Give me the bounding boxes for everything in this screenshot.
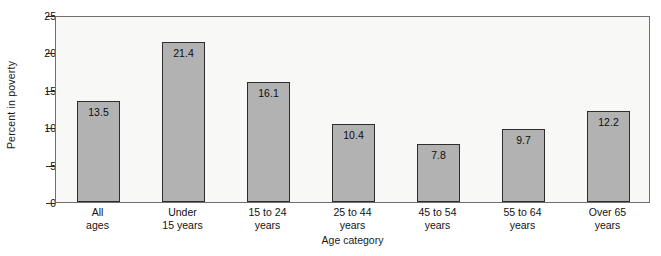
bar-value-label: 10.4 [343, 129, 363, 141]
x-axis-category-label-line1: 55 to 64 [480, 206, 565, 219]
bar-value-label: 13.5 [88, 106, 108, 118]
x-axis-category-label: 45 to 54years [395, 206, 480, 232]
y-axis-tick-mark [46, 166, 55, 167]
x-axis-category-label: Under15 years [140, 206, 225, 232]
x-axis-category-label-line2: ages [55, 219, 140, 232]
x-axis-category-label: Allages [55, 206, 140, 232]
x-axis-category-label-line1: 15 to 24 [225, 206, 310, 219]
bar[interactable]: 16.1 [247, 82, 290, 202]
x-axis-category-label-line1: All [55, 206, 140, 219]
bar[interactable]: 21.4 [162, 42, 205, 202]
x-axis-category-label: Over 65years [565, 206, 650, 232]
x-axis-category-label: 25 to 44years [310, 206, 395, 232]
y-axis-tick-mark [46, 53, 55, 54]
y-axis-title-text: Percent in poverty [5, 61, 17, 149]
y-axis-title: Percent in poverty [0, 0, 22, 210]
bar[interactable]: 7.8 [417, 144, 460, 202]
x-axis-category-label-line1: Over 65 [565, 206, 650, 219]
x-axis-category-label-line1: 25 to 44 [310, 206, 395, 219]
x-axis-category-label-line2: years [565, 219, 650, 232]
bar[interactable]: 9.7 [502, 129, 545, 202]
plot-area: 13.521.416.110.47.89.712.2 [55, 16, 650, 203]
bar[interactable]: 13.5 [77, 101, 120, 202]
bar-value-label: 7.8 [431, 149, 446, 161]
y-axis-tick-mark [46, 203, 55, 204]
x-axis-category-label: 55 to 64years [480, 206, 565, 232]
y-axis-tick-mark [46, 128, 55, 129]
x-axis-category-label-line2: years [480, 219, 565, 232]
bar-chart: Percent in poverty 0510152025 13.521.416… [0, 0, 661, 256]
x-axis-category-label-line2: years [310, 219, 395, 232]
x-axis-category-label-line2: years [395, 219, 480, 232]
bar[interactable]: 10.4 [332, 124, 375, 202]
x-axis-category-label-line1: Under [140, 206, 225, 219]
x-axis-category-label-line2: years [225, 219, 310, 232]
x-axis-category-label-line2: 15 years [140, 219, 225, 232]
bar[interactable]: 12.2 [587, 111, 630, 202]
y-axis-tick-mark [46, 16, 55, 17]
bar-value-label: 12.2 [598, 116, 618, 128]
y-axis-tick-mark [46, 91, 55, 92]
bar-value-label: 16.1 [258, 87, 278, 99]
bar-value-label: 9.7 [516, 134, 531, 146]
x-axis-category-label-line1: 45 to 54 [395, 206, 480, 219]
x-axis-category-label: 15 to 24years [225, 206, 310, 232]
bar-value-label: 21.4 [173, 47, 193, 59]
x-axis-title: Age category [55, 234, 650, 246]
